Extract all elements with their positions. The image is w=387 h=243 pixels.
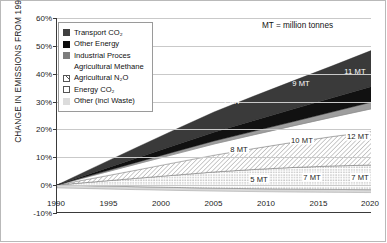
data-label-n2o-3: 12 MT — [346, 132, 370, 141]
ytick-label-60: 60% — [12, 14, 52, 23]
ytick-mark-neg10 — [53, 213, 57, 214]
xtick-label-2010: 2010 — [257, 199, 275, 208]
xtick-label-2015: 2015 — [310, 199, 328, 208]
ytick-mark-60 — [53, 18, 57, 19]
legend-label-other-energy: Other Energy — [74, 40, 119, 48]
data-label-transport-3: 11 MT — [344, 67, 365, 76]
legend-label-transport-co2: Transport CO₂ — [74, 29, 123, 37]
ytick-mark-20 — [53, 129, 57, 130]
ytick-mark-10 — [53, 157, 57, 158]
data-label-transport-1: 7 MT — [223, 97, 241, 106]
legend-swatch-transport-co2 — [63, 29, 70, 36]
ytick-label-40: 40% — [12, 70, 52, 79]
legend-item-other-energy: Other Energy — [63, 38, 148, 49]
xtick-label-1990: 1990 — [47, 199, 65, 208]
ytick-mark-40 — [53, 74, 57, 75]
ytick-mark-50 — [53, 46, 57, 47]
legend-label-agricultural-methane: Agricultural Methane — [74, 63, 144, 71]
legend-label-energy-co2: Energy CO₂ — [74, 86, 115, 94]
emissions-area-chart: CHANGE IN EMISSIONS FROM 1990 — [0, 0, 387, 243]
legend-item-transport-co2: Transport CO₂ — [63, 27, 148, 38]
ytick-label-30: 30% — [12, 98, 52, 107]
legend-item-energy-co2: Energy CO₂ — [63, 84, 148, 95]
ytick-label-20: 20% — [12, 125, 52, 134]
ytick-label-0: 0% — [12, 181, 52, 190]
data-label-energyco2-2: 7 MT — [302, 173, 322, 182]
xtick-label-2005: 2005 — [205, 199, 223, 208]
legend-item-other-incl-waste: Other (incl Waste) — [63, 95, 148, 106]
data-label-energyco2-3: 7 MT — [350, 173, 370, 182]
legend-item-agricultural-methane: Agricultural Methane — [63, 61, 148, 72]
ytick-label-neg10: -10% — [12, 209, 52, 218]
data-label-transport-2: 9 MT — [292, 79, 310, 88]
legend-swatch-industrial-proces — [63, 52, 70, 59]
xtick-label-1995: 1995 — [100, 199, 118, 208]
data-label-energyco2-1: 5 MT — [249, 175, 269, 184]
legend-swatch-agricultural-methane — [63, 63, 70, 70]
legend-swatch-other-energy — [63, 41, 70, 48]
legend-swatch-other-incl-waste — [63, 98, 70, 105]
ytick-label-50: 50% — [12, 42, 52, 51]
ytick-mark-0 — [53, 185, 57, 186]
legend-swatch-energy-co2 — [63, 86, 70, 93]
legend-item-agricultural-n2o: Agricultural N₂O — [63, 73, 148, 84]
legend-item-industrial-proces: Industrial Proces — [63, 50, 148, 61]
chart-legend: Transport CO₂ Other Energy Industrial Pr… — [58, 22, 153, 112]
gridline-0 — [57, 185, 371, 186]
legend-label-industrial-proces: Industrial Proces — [74, 52, 131, 60]
data-label-n2o-1: 8 MT — [229, 145, 249, 154]
gridline-10 — [57, 157, 371, 158]
gridline-20 — [57, 129, 371, 130]
legend-label-agricultural-n2o: Agricultural N₂O — [74, 74, 128, 82]
mt-unit-note: MT = million tonnes — [262, 21, 333, 30]
xtick-label-2000: 2000 — [152, 199, 170, 208]
ytick-mark-30 — [53, 102, 57, 103]
data-label-n2o-2: 10 MT — [290, 136, 314, 145]
xtick-label-2020: 2020 — [361, 199, 379, 208]
legend-swatch-agricultural-n2o — [63, 75, 70, 82]
gridline-60 — [57, 18, 371, 19]
legend-label-other-incl-waste: Other (incl Waste) — [74, 97, 135, 105]
ytick-label-10: 10% — [12, 153, 52, 162]
